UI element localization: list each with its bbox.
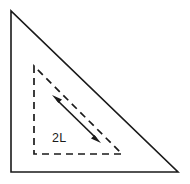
measure-label-2L: 2L [52, 131, 66, 145]
geometry-figure: 2L [0, 0, 190, 184]
figure-canvas: 2L [0, 0, 190, 184]
outer-solid-right-triangle [11, 11, 178, 172]
